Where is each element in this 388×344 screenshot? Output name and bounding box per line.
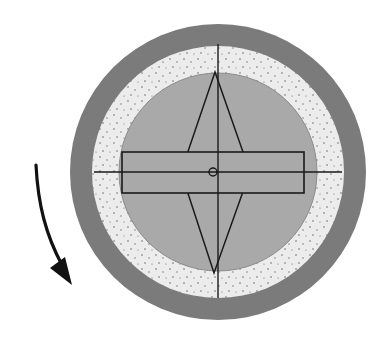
rotation-arrow-shaft <box>36 165 62 265</box>
rotating-disc-diagram <box>0 0 388 344</box>
diagram-canvas <box>0 0 388 344</box>
rotation-arrow-head-icon <box>50 257 72 285</box>
